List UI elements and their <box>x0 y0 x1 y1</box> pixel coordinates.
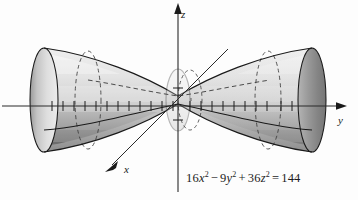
y-axis-arrowhead <box>336 102 347 110</box>
equation-term1-coef: 16 <box>186 171 199 185</box>
y-axis-label: y <box>337 114 343 126</box>
x-axis-arrowhead <box>105 161 118 172</box>
equation-equals-sign: = <box>270 171 281 185</box>
surface-right-tone <box>178 48 312 152</box>
equation-term2-exponent: 2 <box>232 170 236 179</box>
hyperboloid-surface <box>30 44 330 156</box>
x-axis-label: x <box>123 163 129 175</box>
hyperboloid-diagram: z y x <box>0 0 358 200</box>
equation-term3-coef: 36 <box>248 171 261 185</box>
equation-operator-1: − <box>209 171 220 185</box>
figure-container: z y x 16x2−9y2+36z2=144 <box>0 0 358 200</box>
equation-right-hand-side: 144 <box>281 171 300 185</box>
equation-caption: 16x2−9y2+36z2=144 <box>186 171 301 186</box>
equation-operator-2: + <box>237 171 248 185</box>
z-axis-label: z <box>180 8 186 20</box>
